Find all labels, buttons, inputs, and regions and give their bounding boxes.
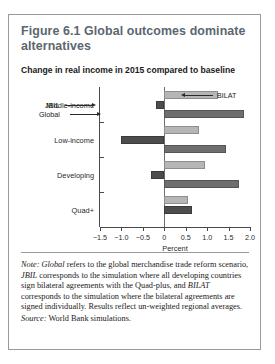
x-tick [121,227,122,231]
figure-title: Figure 6.1 Global outcomes dominate alte… [21,24,246,54]
bar-chart: Percent −1.5−1.0−0.500.51.01.52.0Middle-… [21,85,251,235]
figure-source: Source: World Bank simulations. [21,314,249,325]
x-tick-label: −0.5 [136,233,150,242]
leader-line [65,105,93,106]
bar-global [164,180,239,188]
plot-panel [100,87,250,227]
annotation-global: Global [39,110,60,119]
x-tick-label: 2.0 [245,233,255,242]
x-tick-label: −1.5 [93,233,107,242]
bar-bilat [164,161,205,169]
category-label: Developing [57,170,94,179]
bar-jbil [151,171,164,179]
leader-line [70,114,98,115]
bar-jbil [121,136,164,144]
figure-box: Figure 6.1 Global outcomes dominate alte… [8,14,261,350]
annotation-bilat: BILAT [217,91,236,100]
note-label: Note: [21,260,39,269]
source-label: Source: [21,314,47,323]
leader-line [184,95,213,96]
x-tick [207,227,208,231]
leader-arrow [97,112,101,116]
source-text: World Bank simulations. [47,314,131,323]
divider [21,252,249,253]
category-tick [99,122,104,123]
note-term-jbil: JBIL [21,271,37,280]
x-tick-label: 1.0 [202,233,212,242]
category-tick [99,157,104,158]
value-axis [100,227,250,228]
x-tick-label: 0.5 [181,233,191,242]
bar-bilat [164,196,188,204]
leader-arrow [92,103,96,107]
x-tick [229,227,230,231]
x-tick-label: 0 [162,233,166,242]
bar-global [164,110,243,118]
figure-note: Note: Global refers to the global mercha… [21,260,249,313]
note-text-1: refers to the global merchandise trade r… [65,260,249,269]
x-tick [100,227,101,231]
chart-subtitle: Change in real income in 2015 compared t… [21,65,253,76]
x-tick [143,227,144,231]
x-tick-label: −1.0 [114,233,128,242]
annotation-jbil: JBIL [45,100,59,109]
x-tick [186,227,187,231]
bar-jbil [164,206,192,214]
bar-global [164,145,226,153]
note-text-3: corresponds to the simulation where the … [21,292,242,312]
note-term-bilat: BILAT [188,281,210,290]
category-tick [99,192,104,193]
category-label: Low-income [54,135,94,144]
x-tick-label: 1.5 [224,233,234,242]
bar-bilat [164,126,198,134]
category-label: Quad+ [72,205,94,214]
leader-arrow [181,93,185,97]
x-tick [164,227,165,231]
x-tick [250,227,251,231]
bar-jbil [156,101,165,109]
note-term-global: Global [42,260,65,269]
